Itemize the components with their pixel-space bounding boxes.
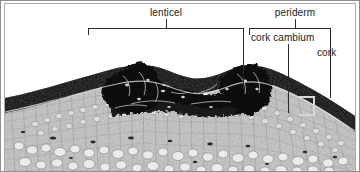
cork-thickness-bracket-side <box>313 96 315 116</box>
lenticel-bracket-bar <box>88 28 244 29</box>
lenticel-leader-stem <box>166 19 167 28</box>
cork-leader-line <box>330 59 331 98</box>
bark-micrograph-figure: lenticel periderm cork cambium cork <box>0 0 360 172</box>
cork-thickness-bracket-bottom <box>299 114 315 116</box>
label-periderm: periderm <box>258 7 332 18</box>
lenticel-bracket-left-arm <box>88 28 89 35</box>
periderm-bracket-right-arm <box>330 28 331 45</box>
periderm-bracket-left-arm <box>249 28 250 35</box>
periderm-bracket-bar <box>249 28 331 29</box>
label-cork-cambium: cork cambium <box>251 32 314 43</box>
lenticel-bracket-right-arm <box>243 28 244 90</box>
label-cork: cork <box>317 47 336 58</box>
cork-cambium-leader-line <box>288 51 289 113</box>
periderm-leader-stem <box>295 19 296 28</box>
cork-cambium-leader-stem <box>288 44 289 51</box>
